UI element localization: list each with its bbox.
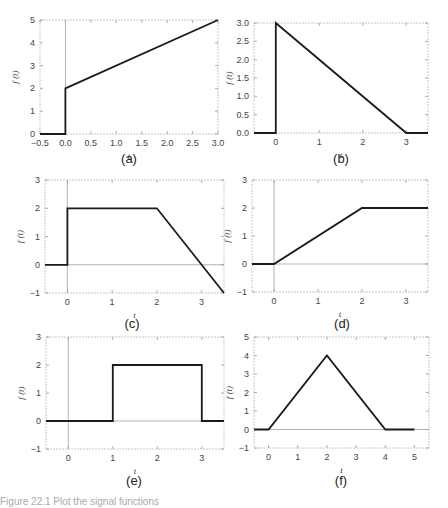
x-tick-label: 3.0 bbox=[212, 138, 225, 148]
chart-panel-b: 01230.00.51.01.52.02.53.0tf (t) (b) bbox=[224, 0, 448, 170]
y-axis-label: f (t) bbox=[224, 386, 234, 399]
x-tick-label: 3 bbox=[199, 297, 204, 307]
y-tick-label: 2.5 bbox=[236, 36, 249, 46]
x-tick-label: 2 bbox=[324, 452, 329, 462]
y-tick-label: 1 bbox=[244, 406, 249, 416]
chart-panel-f: 012345−1012345tf (t) (f) bbox=[224, 330, 448, 500]
y-tick-label: 2 bbox=[35, 203, 40, 213]
x-tick-label: 0 bbox=[65, 297, 70, 307]
y-tick-label: 1 bbox=[242, 231, 247, 241]
y-axis-label: f (t) bbox=[224, 71, 234, 84]
chart-d-sublabel: (d) bbox=[322, 316, 362, 331]
x-tick-label: 0.0 bbox=[59, 138, 72, 148]
x-tick-label: −0.5 bbox=[31, 138, 49, 148]
y-tick-label: 1 bbox=[36, 388, 41, 398]
signal-line bbox=[254, 23, 428, 133]
chart-b-svg: 01230.00.51.01.52.02.53.0tf (t) bbox=[224, 0, 448, 150]
y-tick-label: 3 bbox=[35, 175, 40, 185]
x-tick-label: 1 bbox=[315, 296, 320, 306]
x-tick-label: 4 bbox=[383, 452, 388, 462]
plot-frame bbox=[254, 337, 429, 448]
x-tick-label: 2.5 bbox=[186, 138, 199, 148]
chart-c-svg: 0123−10123tf (t) bbox=[0, 165, 224, 315]
chart-e-sublabel: (e) bbox=[114, 473, 154, 488]
x-tick-label: 1 bbox=[317, 137, 322, 147]
x-tick-label: 0 bbox=[266, 452, 271, 462]
chart-panel-a: −0.50.00.51.01.52.02.53.0012345tf (t) (a… bbox=[0, 0, 224, 170]
x-tick-label: 1 bbox=[295, 452, 300, 462]
chart-f-sublabel: (f) bbox=[321, 473, 361, 488]
y-axis-label: f (t) bbox=[10, 70, 20, 83]
y-tick-label: 3 bbox=[36, 332, 41, 342]
signal-line bbox=[45, 208, 224, 293]
signal-line bbox=[254, 356, 414, 430]
y-tick-label: 4 bbox=[30, 38, 35, 48]
signal-line bbox=[46, 365, 224, 421]
x-tick-label: 2 bbox=[154, 297, 159, 307]
y-tick-label: 2 bbox=[244, 388, 249, 398]
y-axis-label: f (t) bbox=[16, 386, 26, 399]
y-tick-label: 5 bbox=[244, 332, 249, 342]
y-tick-label: 2 bbox=[242, 203, 247, 213]
chart-e-svg: 0123−10123tf (t) bbox=[0, 330, 224, 480]
x-tick-label: 0 bbox=[271, 296, 276, 306]
x-tick-label: 0 bbox=[273, 137, 278, 147]
y-tick-label: 4 bbox=[244, 351, 249, 361]
y-tick-label: −1 bbox=[30, 288, 40, 298]
y-tick-label: −1 bbox=[31, 444, 41, 454]
figure-caption: Figure 22.1 Plot the signal functions bbox=[0, 496, 159, 507]
plot-frame bbox=[252, 180, 428, 292]
y-tick-label: 1.0 bbox=[236, 91, 249, 101]
y-tick-label: 2 bbox=[36, 360, 41, 370]
plot-frame bbox=[45, 180, 224, 293]
y-tick-label: 0 bbox=[244, 425, 249, 435]
y-tick-label: 0.0 bbox=[236, 128, 249, 138]
chart-panel-d: 0123−10123tf (t) (d) bbox=[224, 165, 448, 335]
x-tick-label: 5 bbox=[412, 452, 417, 462]
y-tick-label: 2.0 bbox=[236, 55, 249, 65]
chart-b-sublabel: (b) bbox=[321, 151, 361, 166]
x-tick-label: 3 bbox=[404, 137, 409, 147]
chart-f-svg: 012345−1012345tf (t) bbox=[224, 330, 448, 480]
y-tick-label: 0 bbox=[35, 260, 40, 270]
x-tick-label: 2 bbox=[155, 453, 160, 463]
y-tick-label: 3 bbox=[244, 369, 249, 379]
y-tick-label: 3.0 bbox=[236, 18, 249, 28]
signal-line bbox=[40, 20, 218, 134]
chart-panel-c: 0123−10123tf (t) (c) bbox=[0, 165, 224, 335]
x-tick-label: 0.5 bbox=[85, 138, 98, 148]
chart-a-svg: −0.50.00.51.01.52.02.53.0012345tf (t) bbox=[0, 0, 224, 150]
y-tick-label: 1 bbox=[30, 106, 35, 116]
y-tick-label: 3 bbox=[242, 175, 247, 185]
x-tick-label: 0 bbox=[66, 453, 71, 463]
y-tick-label: 3 bbox=[30, 61, 35, 71]
y-tick-label: 0.5 bbox=[236, 110, 249, 120]
y-tick-label: 0 bbox=[36, 416, 41, 426]
x-tick-label: 1 bbox=[110, 453, 115, 463]
y-axis-label: f (t) bbox=[222, 229, 232, 242]
plot-frame bbox=[46, 337, 224, 449]
chart-c-sublabel: (c) bbox=[112, 316, 152, 331]
y-tick-label: 0 bbox=[242, 259, 247, 269]
y-axis-label: f (t) bbox=[15, 230, 25, 243]
x-tick-label: 3 bbox=[199, 453, 204, 463]
x-tick-label: 1.5 bbox=[135, 138, 148, 148]
y-tick-label: −1 bbox=[239, 443, 249, 453]
y-tick-label: −1 bbox=[237, 287, 247, 297]
x-tick-label: 3 bbox=[403, 296, 408, 306]
plot-frame bbox=[40, 20, 218, 134]
x-tick-label: 2.0 bbox=[161, 138, 174, 148]
x-tick-label: 2 bbox=[360, 137, 365, 147]
chart-d-svg: 0123−10123tf (t) bbox=[224, 165, 448, 315]
x-tick-label: 3 bbox=[354, 452, 359, 462]
y-tick-label: 1 bbox=[35, 232, 40, 242]
y-tick-label: 1.5 bbox=[236, 73, 249, 83]
signal-line bbox=[252, 208, 428, 264]
y-tick-label: 5 bbox=[30, 15, 35, 25]
y-tick-label: 2 bbox=[30, 83, 35, 93]
chart-a-sublabel: (a) bbox=[109, 151, 149, 166]
chart-panel-e: 0123−10123tf (t) (e) bbox=[0, 330, 224, 500]
x-tick-label: 1 bbox=[110, 297, 115, 307]
y-tick-label: 0 bbox=[30, 129, 35, 139]
x-tick-label: 1.0 bbox=[110, 138, 123, 148]
